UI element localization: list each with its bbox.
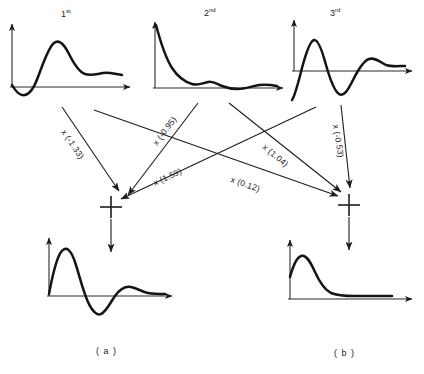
gain-label-second-to-b: x (1.04) [261,142,291,169]
panel-first [10,24,130,95]
panel-a [47,238,172,314]
summer-b [338,194,360,216]
svg-text:x (1.59): x (1.59) [152,166,184,188]
panel-first-label: 1st [61,8,71,19]
panel-second-label: 2nd [204,7,216,18]
figure-canvas: 1st 2nd 3rd x (-1.33) [0,0,424,374]
gain-label-second-to-a: x (-0.95) [151,114,179,147]
panel-third [292,20,412,100]
svg-text:x (-1.33): x (-1.33) [59,128,86,161]
edge-third-to-a [121,107,316,199]
summer-a [100,196,122,218]
gain-label-first-to-b: x (0.12) [229,174,261,193]
panel-a-label: ( a ) [96,346,117,356]
panel-third-label: 3rd [330,7,340,18]
panel-third-curve [292,40,405,100]
panel-second [153,22,283,89]
panel-b-curve [290,256,392,296]
gain-label-third-to-a: x (1.59) [152,166,184,188]
gain-label-first-to-a: x (-1.33) [59,128,86,161]
panel-b [288,240,412,299]
panel-a-curve [49,249,165,315]
svg-text:x (0.12): x (0.12) [229,174,261,193]
svg-text:x (-0.95): x (-0.95) [151,114,179,147]
edge-first-to-b [94,110,338,196]
svg-text:x (1.04): x (1.04) [261,142,291,169]
panel-second-curve [156,25,277,89]
panel-b-label: ( b ) [334,348,355,358]
